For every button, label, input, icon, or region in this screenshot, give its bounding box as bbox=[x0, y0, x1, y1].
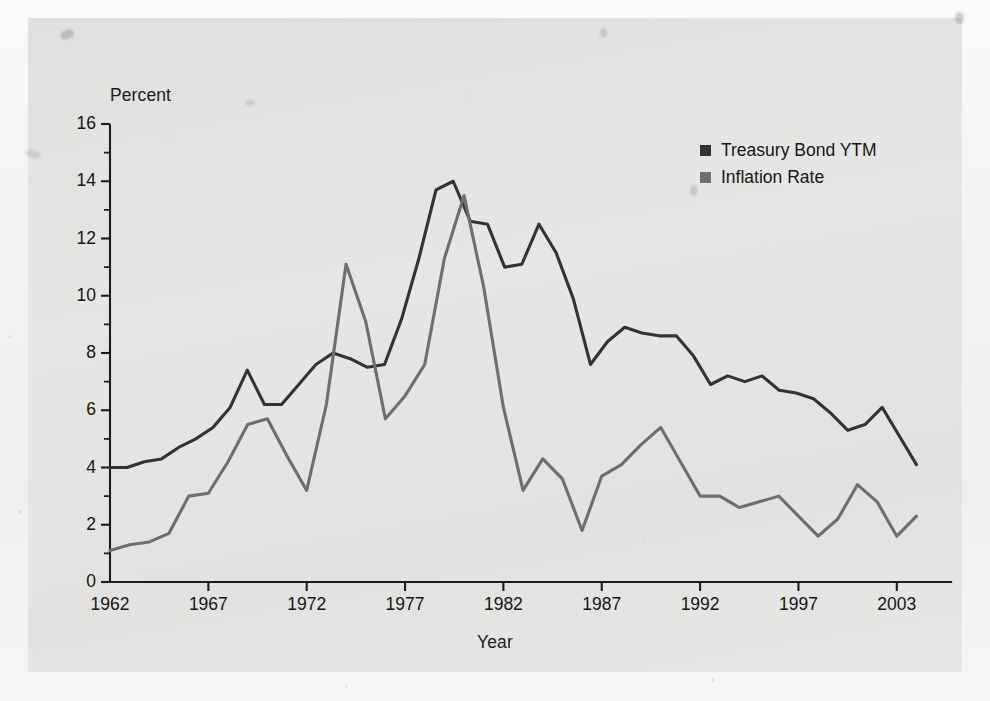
y-axis-title: Percent bbox=[110, 85, 171, 106]
x-tick-label: 1982 bbox=[463, 594, 543, 615]
x-tick-label: 1987 bbox=[562, 594, 642, 615]
legend-item: Inflation Rate bbox=[700, 166, 877, 189]
x-tick-label: 1992 bbox=[660, 594, 740, 615]
y-tick-label: 16 bbox=[56, 113, 96, 134]
x-tick-label: 1972 bbox=[267, 594, 347, 615]
x-tick-label: 1977 bbox=[365, 594, 445, 615]
y-tick-label: 10 bbox=[56, 285, 96, 306]
x-tick-label: 1997 bbox=[758, 594, 838, 615]
x-axis-title: Year bbox=[0, 632, 990, 653]
x-tick-label: 2003 bbox=[857, 594, 937, 615]
y-tick-label: 6 bbox=[56, 399, 96, 420]
legend-item: Treasury Bond YTM bbox=[700, 139, 877, 162]
x-tick-label: 1962 bbox=[70, 594, 150, 615]
legend-swatch-icon bbox=[700, 172, 711, 183]
y-tick-label: 12 bbox=[56, 228, 96, 249]
y-tick-label: 14 bbox=[56, 170, 96, 191]
chart-series bbox=[110, 181, 916, 550]
legend-label: Treasury Bond YTM bbox=[721, 140, 877, 161]
y-tick-label: 0 bbox=[56, 571, 96, 592]
legend-label: Inflation Rate bbox=[721, 167, 824, 188]
legend-swatch-icon bbox=[700, 145, 711, 156]
x-tick-label: 1967 bbox=[168, 594, 248, 615]
figure-page: Percent Year 0246810121416 1962196719721… bbox=[0, 0, 990, 701]
chart-legend: Treasury Bond YTMInflation Rate bbox=[700, 139, 877, 193]
chart-axes bbox=[101, 124, 952, 591]
y-tick-label: 8 bbox=[56, 342, 96, 363]
y-tick-label: 2 bbox=[56, 514, 96, 535]
y-tick-label: 4 bbox=[56, 457, 96, 478]
